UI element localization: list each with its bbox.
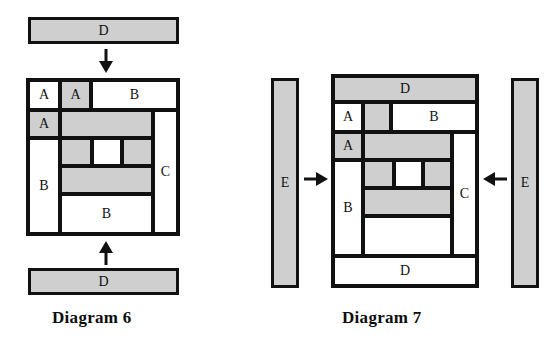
d7-cell-d-bottom-label: D [400,264,410,278]
d6-bottom-bar-D: D [28,268,179,295]
d6-cell-b-left: B [28,138,60,234]
d7-right-bar-E: E [511,78,539,288]
d7-band-lower [363,188,452,216]
d7-cell-b-top: B [391,102,477,132]
arrow-left-icon [482,168,508,190]
d7-cell-a3: A [333,132,363,160]
d6-cell-a2: A [60,80,91,110]
diagram7-caption: Diagram 7 [342,308,422,328]
d6-cell-c-label: C [161,165,170,179]
d6-cell-b-bottom: B [60,194,153,234]
d7-cell-a3-label: A [343,139,353,153]
d7-cell-c: C [452,132,477,256]
d7-cell-a2 [363,102,391,132]
d7-cell-d-top: D [333,76,477,102]
arrow-right-icon [303,168,329,190]
d7-cell-mid-left [363,160,394,188]
d6-cell-b-bottom-label: B [102,207,111,221]
d7-cell-c-label: C [460,187,469,201]
d7-cell-d-bottom: D [333,256,477,286]
figure-canvas: D A A B A C B [0,0,544,344]
arrow-down-icon [95,48,117,74]
d6-top-bar-label: D [98,24,108,38]
d7-cell-lower-white [363,216,452,256]
diagram6-caption: Diagram 6 [52,308,132,328]
d6-cell-b-top: B [91,80,178,110]
d6-cell-mid-right [122,138,153,166]
d6-cell-mid-left [60,138,92,166]
d7-cell-d-top-label: D [400,82,410,96]
d7-right-bar-label: E [521,176,530,190]
d7-band-upper [363,132,452,160]
d7-cell-b-top-label: B [429,110,438,124]
d6-bottom-bar-label: D [98,275,108,289]
d7-cell-a1: A [333,102,363,132]
d6-cell-a2-label: A [70,88,80,102]
d6-cell-b-top-label: B [130,88,139,102]
d7-cell-b-left: B [333,160,363,256]
d7-cell-mid-center [394,160,423,188]
d7-cell-a1-label: A [343,110,353,124]
d6-band-upper [60,110,153,138]
d6-cell-a1-label: A [39,88,49,102]
d7-left-bar-E: E [271,78,299,288]
d6-cell-c: C [153,110,178,234]
d6-cell-a3-label: A [39,117,49,131]
d6-cell-a1: A [28,80,60,110]
d7-cell-mid-right [423,160,452,188]
d7-left-bar-label: E [281,176,290,190]
d7-cell-b-left-label: B [343,201,352,215]
d6-top-bar-D: D [28,17,179,44]
d6-cell-mid-center [92,138,122,166]
arrow-up-icon [95,240,117,266]
d6-band-lower [60,166,153,194]
d6-cell-a3: A [28,110,60,138]
d6-cell-b-left-label: B [39,179,48,193]
